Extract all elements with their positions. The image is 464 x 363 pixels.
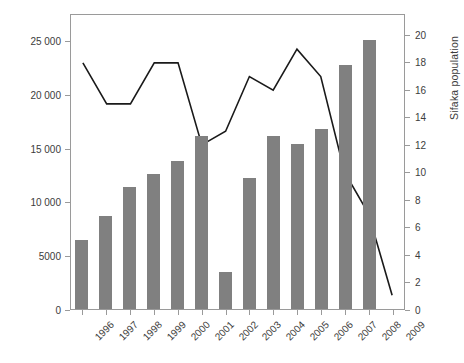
y-axis-left-tick-label: 25 000 (30, 35, 61, 46)
x-axis-tick-mark (321, 310, 322, 315)
bar (123, 187, 136, 309)
y-axis-right-tick-label: 16 (415, 84, 426, 95)
x-axis-tick-label: 2006 (332, 319, 356, 343)
y-axis-right-tick-mark (405, 310, 410, 311)
plot-area (71, 15, 404, 309)
x-axis-tick-mark (106, 310, 107, 315)
y-axis-right-tick-mark (405, 172, 410, 173)
x-axis-tick-mark (369, 310, 370, 315)
x-axis-tick-label: 1998 (140, 319, 164, 343)
bar (75, 240, 88, 309)
bar (243, 178, 256, 309)
y-axis-right-tick-label: 2 (415, 277, 421, 288)
x-axis-tick-mark (130, 310, 131, 315)
y-axis-left-tick-label: 0 (55, 305, 61, 316)
x-axis-tick-label: 1996 (92, 319, 116, 343)
y-axis-right-tick-mark (405, 255, 410, 256)
y-axis-left-tick-label: 5000 (39, 251, 61, 262)
bar (195, 136, 208, 309)
x-axis-tick-mark (178, 310, 179, 315)
x-axis-tick-label: 1997 (116, 319, 140, 343)
x-axis-tick-label: 2001 (212, 319, 236, 343)
y-axis-left-tick-label: 10 000 (30, 197, 61, 208)
x-axis-tick-mark (249, 310, 250, 315)
x-axis-tick-mark (273, 310, 274, 315)
x-axis-tick-label: 2002 (236, 319, 260, 343)
x-axis-tick-mark (393, 310, 394, 315)
bar (291, 144, 304, 309)
y-axis-right-tick-label: 4 (415, 249, 421, 260)
y-axis-right-title: Sifaka population (448, 36, 460, 120)
x-axis-tick-mark (345, 310, 346, 315)
x-axis-tick-label: 2003 (260, 319, 284, 343)
bar (219, 272, 232, 309)
y-axis-right-tick-label: 20 (415, 29, 426, 40)
chart-figure: Tourists Sifaka population 0500010 00015… (0, 0, 464, 363)
y-axis-left-tick-mark (65, 256, 70, 257)
y-axis-right-tick-mark (405, 62, 410, 63)
y-axis-right-tick-mark (405, 35, 410, 36)
y-axis-right-tick-label: 6 (415, 222, 421, 233)
x-axis-tick-mark (154, 310, 155, 315)
x-axis-tick-label: 2000 (188, 319, 212, 343)
bar (267, 136, 280, 309)
y-axis-right-tick-mark (405, 282, 410, 283)
y-axis-left-tick-mark (65, 149, 70, 150)
bar (339, 65, 352, 309)
y-axis-left-tick-mark (65, 41, 70, 42)
y-axis-right-tick-mark (405, 117, 410, 118)
x-axis-tick-mark (297, 310, 298, 315)
bar (315, 129, 328, 309)
y-axis-right-tick-label: 18 (415, 57, 426, 68)
y-axis-right-tick-label: 10 (415, 167, 426, 178)
x-axis-tick-label: 2005 (308, 319, 332, 343)
x-axis-tick-mark (82, 310, 83, 315)
bar (99, 216, 112, 309)
bar (171, 161, 184, 309)
y-axis-right-tick-label: 8 (415, 194, 421, 205)
y-axis-left-tick-label: 20 000 (30, 89, 61, 100)
bar (147, 174, 160, 309)
y-axis-right-tick-label: 0 (415, 305, 421, 316)
y-axis-left-tick-label: 15 000 (30, 143, 61, 154)
y-axis-left-tick-mark (65, 310, 70, 311)
y-axis-left-tick-mark (65, 202, 70, 203)
x-axis-tick-label: 2007 (356, 319, 380, 343)
y-axis-right-tick-mark (405, 227, 410, 228)
y-axis-right-tick-mark (405, 90, 410, 91)
y-axis-right-tick-label: 12 (415, 139, 426, 150)
x-axis-tick-label: 1999 (164, 319, 188, 343)
x-axis-tick-mark (202, 310, 203, 315)
y-axis-right-tick-label: 14 (415, 112, 426, 123)
x-axis-tick-label: 2008 (380, 319, 404, 343)
y-axis-right-tick-mark (405, 145, 410, 146)
plot-frame (70, 14, 405, 310)
y-axis-right-tick-mark (405, 200, 410, 201)
x-axis-tick-label: 2009 (404, 319, 428, 343)
y-axis-left-tick-mark (65, 95, 70, 96)
bar (363, 40, 376, 309)
x-axis-tick-label: 2004 (284, 319, 308, 343)
x-axis-tick-mark (226, 310, 227, 315)
